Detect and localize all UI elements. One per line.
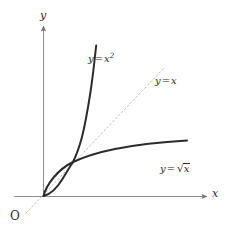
identity-label-lhs: y [155,75,161,86]
parabola-curve [44,46,97,197]
curve-label-sqrt: y=√x [160,163,190,174]
x-axis-label: x [212,188,218,199]
origin-label: O [10,210,20,222]
identity-label-equals: = [161,75,171,86]
radical-group: √x [176,163,190,174]
identity-label-rhs: x [171,75,177,86]
y-axis-label: y [40,10,46,21]
sqrt-label-equals: = [166,163,176,174]
graph-plot [0,0,228,233]
curve-label-parabola: y=x2 [88,52,114,64]
sqrt-label-lhs: y [160,163,166,174]
parabola-label-lhs: y [88,53,94,64]
radicand: x [183,163,191,174]
parabola-label-equals: = [94,53,104,64]
identity-line-dashed [26,68,164,213]
figure-container: y x O y=x2 y=x y=√x [0,0,228,233]
parabola-label-exponent: 2 [110,51,115,60]
curve-label-identity: y=x [155,76,177,86]
